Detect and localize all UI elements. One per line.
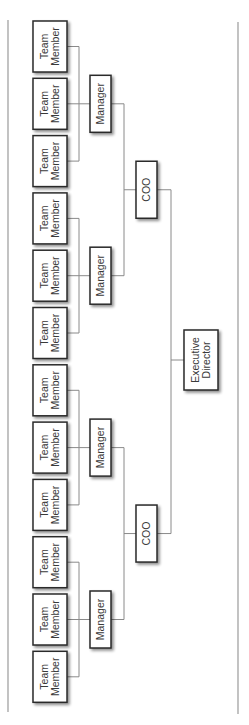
team-member-node: TeamMember	[33, 136, 67, 187]
executive-director-node-label-line: Executive	[189, 337, 201, 383]
manager-node-label-line: Manager	[94, 83, 106, 125]
team-member-node-label-line: Member	[49, 657, 61, 696]
coo-node-label: COO	[140, 178, 152, 202]
team-member-node: TeamMember	[33, 193, 67, 244]
org-chart: TeamMemberTeamMemberTeamMemberManagerTea…	[0, 0, 249, 725]
manager-node-label: Manager	[94, 426, 106, 468]
team-member-node-label-line: Member	[49, 428, 61, 467]
team-member-node-label-line: Member	[49, 199, 61, 238]
connectors	[67, 47, 184, 677]
manager-node: Manager	[90, 419, 111, 476]
team-member-node-label-line: Team	[38, 435, 50, 461]
team-member-node-label-line: Team	[38, 148, 50, 174]
manager-node-label-line: Manager	[94, 598, 106, 640]
team-member-node: TeamMember	[33, 308, 67, 359]
manager-node: Manager	[90, 247, 111, 304]
team-member-node-label-line: Member	[49, 371, 61, 410]
team-member-node-label-line: Team	[38, 492, 50, 518]
manager-node-label: Manager	[94, 83, 106, 125]
team-member-node-label-line: Team	[38, 549, 50, 575]
coo-node-label-line: COO	[140, 522, 152, 546]
team-member-node-label-line: Team	[38, 91, 50, 117]
manager-node: Manager	[90, 75, 111, 132]
team-member-node: TeamMember	[33, 78, 67, 129]
team-member-node-label-line: Team	[38, 606, 50, 632]
team-member-node: TeamMember	[33, 250, 67, 301]
team-member-node-label-line: Member	[49, 485, 61, 524]
team-member-node-label-line: Team	[38, 664, 50, 690]
team-member-node-label-line: Member	[49, 256, 61, 295]
executive-director-node: ExecutiveDirector	[184, 330, 218, 390]
team-member-node: TeamMember	[33, 537, 67, 588]
team-member-node: TeamMember	[33, 479, 67, 530]
team-member-node-label-line: Team	[38, 320, 50, 346]
team-member-node-label-line: Member	[49, 84, 61, 123]
manager-node: Manager	[90, 591, 111, 648]
executive-director-node-label-line: Director	[200, 341, 212, 378]
team-member-node: TeamMember	[33, 21, 67, 72]
manager-node-label-line: Manager	[94, 254, 106, 296]
team-member-node-label-line: Team	[38, 377, 50, 403]
team-member-node: TeamMember	[33, 594, 67, 645]
manager-node-label: Manager	[94, 598, 106, 640]
executive-director-node-label: ExecutiveDirector	[189, 337, 213, 383]
nodes: TeamMemberTeamMemberTeamMemberManagerTea…	[33, 21, 218, 702]
team-member-node: TeamMember	[33, 422, 67, 473]
manager-node-label-line: Manager	[94, 426, 106, 468]
team-member-node-label-line: Member	[49, 27, 61, 66]
team-member-node-label-line: Member	[49, 542, 61, 581]
team-member-node: TeamMember	[33, 365, 67, 416]
coo-node: COO	[136, 505, 157, 562]
manager-node-label: Manager	[94, 254, 106, 296]
team-member-node: TeamMember	[33, 651, 67, 702]
team-member-node-label-line: Team	[38, 33, 50, 59]
team-member-node-label-line: Member	[49, 600, 61, 639]
team-member-node-label-line: Team	[38, 263, 50, 289]
team-member-node-label-line: Team	[38, 205, 50, 231]
coo-node: COO	[136, 161, 157, 218]
team-member-node-label-line: Member	[49, 141, 61, 180]
coo-node-label: COO	[140, 522, 152, 546]
coo-node-label-line: COO	[140, 178, 152, 202]
team-member-node-label-line: Member	[49, 313, 61, 352]
